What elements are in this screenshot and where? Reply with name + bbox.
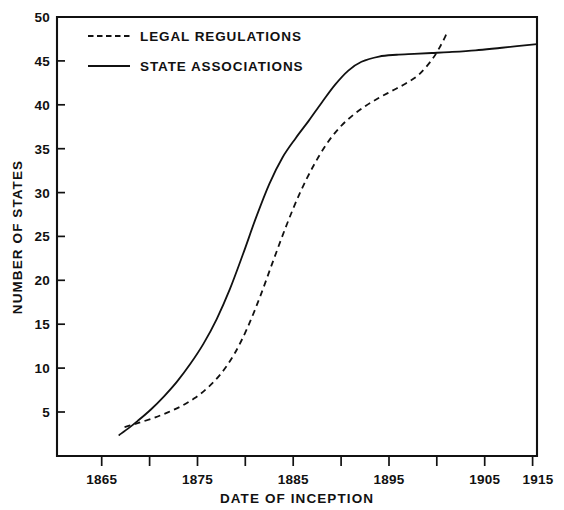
y-axis-ticks [57,17,65,412]
plot-frame [57,17,537,456]
x-axis-tick-labels: 1865 1875 1885 1895 1905 1915 [86,472,553,487]
y-tick-label-25: 25 [35,229,51,244]
legend: LEGAL REGULATIONS STATE ASSOCIATIONS [88,29,303,74]
figure-container: 50 45 40 35 30 25 20 15 10 5 NUMBER OF S… [0,0,564,510]
x-tick-label-1905: 1905 [469,472,500,487]
x-tick-label-1915: 1915 [523,472,554,487]
y-tick-label-10: 10 [35,361,50,376]
x-tick-label-1875: 1875 [182,472,213,487]
y-tick-label-40: 40 [35,98,50,113]
x-axis-minor-ticks [150,456,533,466]
y-tick-label-15: 15 [35,317,51,332]
line-chart: 50 45 40 35 30 25 20 15 10 5 NUMBER OF S… [0,0,564,510]
y-tick-label-50: 50 [35,10,50,25]
x-axis-major-ticks [102,456,485,466]
y-tick-label-45: 45 [35,54,51,69]
y-tick-label-35: 35 [35,142,51,157]
x-tick-label-1885: 1885 [278,472,309,487]
series-line-legal-regulations [125,34,447,427]
legend-label-legal-regulations: LEGAL REGULATIONS [140,29,302,44]
series-line-state-associations [119,44,537,435]
y-axis-title: NUMBER OF STATES [10,160,25,314]
y-tick-label-20: 20 [35,273,50,288]
y-tick-label-5: 5 [42,405,50,420]
legend-label-state-associations: STATE ASSOCIATIONS [140,59,303,74]
y-axis-tick-labels: 50 45 40 35 30 25 20 15 10 5 [35,10,51,420]
x-tick-label-1865: 1865 [86,472,117,487]
x-tick-label-1895: 1895 [374,472,405,487]
y-tick-label-30: 30 [35,186,50,201]
x-axis-title: DATE OF INCEPTION [220,491,374,506]
